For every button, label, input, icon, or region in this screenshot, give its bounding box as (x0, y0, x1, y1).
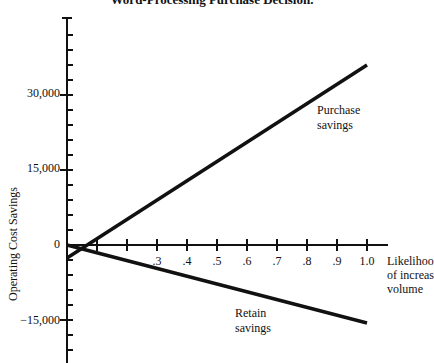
purchase-savings-annotation: Purchase savings (317, 103, 360, 133)
x-tick-label: .3 (147, 254, 167, 269)
purchase-savings-line (67, 65, 367, 258)
x-tick-label: .6 (237, 254, 257, 269)
x-tick-label: .9 (327, 254, 347, 269)
x-tick-label: .4 (177, 254, 197, 269)
x-tick-label: .7 (267, 254, 287, 269)
y-tick-label: 0 (4, 237, 60, 252)
x-tick-label: .5 (207, 254, 227, 269)
y-tick-label: −15,000 (4, 313, 60, 328)
y-tick-label: 15,000 (4, 161, 60, 176)
x-tick-label: 1.0 (355, 254, 379, 269)
retain-savings-annotation: Retain savings (235, 306, 271, 336)
x-tick-label: .8 (297, 254, 317, 269)
y-tick-label: 30,000 (4, 86, 60, 101)
x-axis-label: Likelihoo of increas volume (387, 254, 434, 296)
